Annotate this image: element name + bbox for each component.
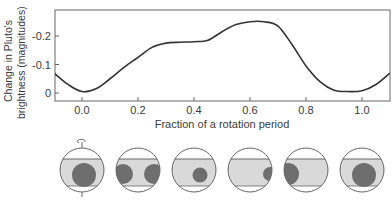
pluto-globe-row [60, 139, 384, 197]
globe-surface [340, 159, 384, 187]
dark-surface-spot [352, 163, 376, 187]
x-axis-ticks: 0.00.20.40.60.81.0 [74, 97, 369, 116]
plot-border [55, 10, 390, 101]
light-curve-line [54, 21, 390, 91]
globe-surface [60, 159, 104, 187]
dark-surface-spot [144, 164, 164, 184]
pluto-globe-phase-0-4 [172, 148, 216, 192]
x-tick-label: 0.4 [186, 104, 201, 116]
rotation-arrow-icon [77, 139, 85, 143]
pluto-globe-phase-0-8 [277, 148, 328, 192]
pluto-globe-phase-0-0 [60, 139, 104, 197]
pluto-light-curve-figure: -0.2-0.10 0.00.20.40.60.81.0 Fraction of… [0, 0, 392, 208]
y-tick-label: 0 [45, 87, 51, 99]
y-axis-label-line-1: Change in Pluto's [2, 20, 14, 102]
plot-frame [55, 10, 390, 101]
x-tick-label: 0.8 [298, 104, 313, 116]
dark-surface-spot [72, 163, 96, 187]
y-axis-label: Change in Pluto's brightness (magnitudes… [0, 12, 30, 102]
x-axis-label: Fraction of a rotation period [155, 118, 290, 130]
globe-surface [172, 159, 216, 186]
x-tick-label: 0.2 [130, 104, 145, 116]
y-axis-label-line-2: brightness (magnitudes) [15, 6, 27, 119]
dark-surface-spot [193, 168, 208, 183]
pluto-globe-phase-0-6 [228, 148, 277, 192]
y-tick-label: -0.2 [32, 30, 51, 42]
x-tick-label: 0.6 [242, 104, 257, 116]
globe-row-caption [150, 203, 290, 208]
dark-surface-spot [277, 163, 299, 185]
y-tick-label: -0.1 [32, 59, 51, 71]
x-tick-label: 1.0 [354, 104, 369, 116]
globe-surface [228, 159, 277, 186]
pluto-globe-phase-1-0 [340, 148, 384, 192]
pluto-globe-phase-0-2 [113, 148, 164, 192]
x-tick-label: 0.0 [74, 104, 89, 116]
